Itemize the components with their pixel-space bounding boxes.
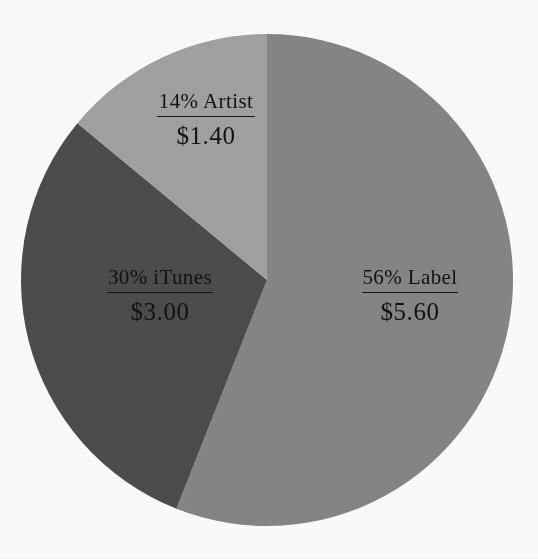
pie-label-artist-title: 14% Artist (140, 90, 272, 116)
pie-label-label: 56% Label $5.60 (347, 266, 473, 325)
pie-label-artist: 14% Artist $1.40 (140, 90, 272, 149)
pie-label-label-rule (362, 292, 458, 293)
pie-label-itunes-title: 30% iTunes (87, 266, 233, 292)
pie-label-itunes: 30% iTunes $3.00 (87, 266, 233, 325)
pie-label-label-title: 56% Label (347, 266, 473, 292)
pie-label-artist-rule (157, 116, 255, 117)
pie-label-artist-amount: $1.40 (140, 120, 272, 149)
pie-label-itunes-rule (107, 292, 213, 293)
pie-label-label-amount: $5.60 (347, 296, 473, 325)
pie-label-itunes-amount: $3.00 (87, 296, 233, 325)
pie-chart-figure: 14% Artist $1.40 30% iTunes $3.00 56% La… (0, 0, 538, 559)
